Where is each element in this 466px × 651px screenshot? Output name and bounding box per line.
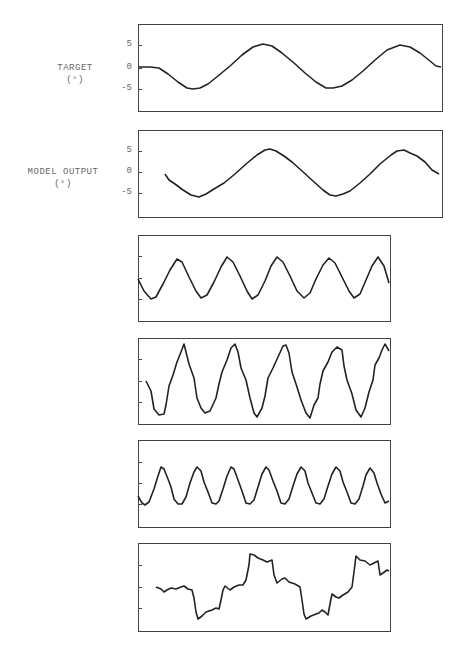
panel-6-trace xyxy=(156,554,389,619)
panel-5-trace xyxy=(138,467,389,505)
panel-5-frame xyxy=(139,441,391,528)
plot-canvas xyxy=(0,0,466,651)
panel-4-frame xyxy=(139,339,391,425)
panel-3-trace xyxy=(138,257,389,299)
panel-6-frame xyxy=(139,544,391,632)
panel-4-trace xyxy=(146,344,389,418)
panel-1-frame xyxy=(139,25,443,112)
panel-2-frame xyxy=(139,131,443,218)
panel-1-trace xyxy=(139,44,441,89)
panel-2-trace xyxy=(165,149,439,197)
panel-3-frame xyxy=(139,236,391,322)
